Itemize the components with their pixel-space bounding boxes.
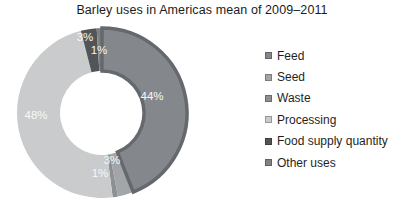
legend-swatch-icon — [265, 52, 272, 59]
chart-legend: FeedSeedWasteProcessingFood supply quant… — [265, 45, 388, 173]
slice-label-food-supply-quantity: 3% — [77, 31, 94, 43]
slice-label-processing: 48% — [24, 109, 47, 121]
legend-item-processing: Processing — [265, 109, 388, 130]
chart-figure: Barley uses in Americas mean of 2009–201… — [0, 0, 404, 200]
slice-label-waste: 1% — [92, 167, 109, 179]
slice-label-feed: 44% — [140, 90, 163, 102]
legend-label: Food supply quantity — [277, 134, 388, 148]
legend-label: Seed — [277, 70, 305, 84]
legend-label: Processing — [277, 113, 336, 127]
legend-label: Other uses — [277, 156, 336, 170]
legend-swatch-icon — [265, 159, 272, 166]
slice-label-other-uses: 1% — [91, 44, 108, 56]
legend-item-seed: Seed — [265, 66, 388, 87]
legend-label: Feed — [277, 49, 304, 63]
legend-swatch-icon — [265, 74, 272, 81]
legend-swatch-icon — [265, 138, 272, 145]
legend-swatch-icon — [265, 95, 272, 102]
legend-item-food-supply-quantity: Food supply quantity — [265, 131, 388, 152]
slice-label-seed: 3% — [104, 154, 121, 166]
legend-item-waste: Waste — [265, 88, 388, 109]
legend-item-other-uses: Other uses — [265, 152, 388, 173]
legend-item-feed: Feed — [265, 45, 388, 66]
legend-label: Waste — [277, 91, 311, 105]
legend-swatch-icon — [265, 116, 272, 123]
